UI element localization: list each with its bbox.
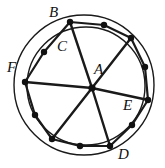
label-C: C [57, 39, 67, 54]
label-E: E [123, 98, 132, 113]
center-dot [88, 84, 95, 91]
geometry-figure: B C F A E D [0, 0, 165, 168]
label-A: A [94, 62, 103, 77]
label-F: F [7, 60, 16, 75]
label-D: D [118, 147, 129, 162]
circle-polygon-diagram [0, 0, 165, 168]
label-B: B [49, 5, 58, 20]
